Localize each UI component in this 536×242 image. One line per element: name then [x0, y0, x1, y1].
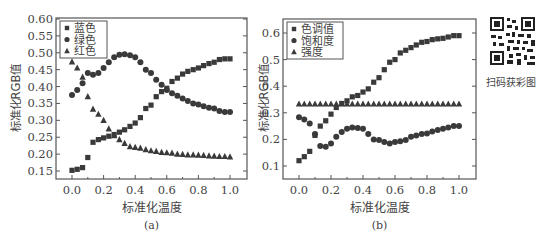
chart-panel-b: 0.10.20.30.40.50.60.00.20.40.60.81.0标准化温…: [257, 19, 476, 232]
y-tick-label: 0.25: [27, 130, 53, 144]
x-tick-label: 1.0: [450, 183, 468, 197]
x-tick-label: 0.8: [418, 183, 436, 197]
legend: 色调值饱和度强度: [287, 22, 343, 59]
y-tick-label: 0.2: [262, 132, 280, 146]
x-tick-label: 1.0: [221, 183, 239, 197]
legend-entry: 强度: [301, 45, 323, 59]
y-tick-label: 0.60: [27, 12, 53, 26]
y-tick-label: 0.55: [27, 29, 53, 43]
x-tick-label: 0.6: [386, 183, 404, 197]
x-tick-label: 0.8: [189, 183, 207, 197]
x-tick-label: 0.4: [126, 183, 144, 197]
x-tick-label: 0.6: [158, 183, 176, 197]
figure: 0.150.200.250.300.350.400.450.500.550.60…: [0, 0, 536, 242]
qr-code-icon: [489, 16, 536, 66]
y-tick-label: 0.15: [27, 164, 53, 178]
x-axis-ticks: 0.00.20.40.60.81.0: [290, 175, 468, 197]
y-tick-label: 0.50: [27, 46, 53, 60]
y-tick-label: 0.6: [262, 26, 280, 40]
x-axis-label: 标准化温度: [350, 200, 410, 215]
x-tick-label: 0.4: [354, 183, 372, 197]
y-tick-label: 0.20: [27, 147, 53, 161]
data-series-circle: [296, 114, 462, 150]
legend-entry: 红色: [74, 44, 96, 58]
x-axis-label: 标准化温度: [122, 200, 182, 215]
y-tick-label: 0.30: [27, 113, 53, 127]
x-tick-label: 0.2: [94, 183, 112, 197]
y-tick-label: 0.35: [27, 96, 53, 110]
panel-label: (b): [372, 219, 388, 232]
y-tick-label: 0.40: [27, 80, 53, 94]
x-tick-label: 0.0: [63, 183, 81, 197]
x-axis-ticks: 0.00.20.40.60.81.0: [63, 175, 239, 197]
data-series-triangle: [296, 100, 462, 106]
x-tick-label: 0.0: [290, 183, 308, 197]
y-tick-label: 0.1: [262, 159, 280, 173]
qr-caption: 扫码获彩图: [486, 74, 536, 89]
y-axis-label: 标准化RGB值: [9, 63, 23, 133]
y-axis-label: 标准化RGB值: [257, 63, 271, 133]
x-tick-label: 0.2: [322, 183, 340, 197]
chart-panel-a: 0.150.200.250.300.350.400.450.500.550.60…: [9, 12, 247, 232]
panel-label: (a): [144, 219, 159, 232]
y-tick-label: 0.45: [27, 63, 53, 77]
legend: 蓝色绿色红色: [60, 21, 107, 58]
